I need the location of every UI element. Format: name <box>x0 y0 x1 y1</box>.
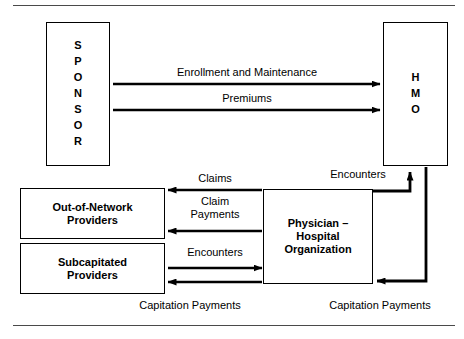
hmo-letter: H <box>412 70 420 86</box>
out-of-network-label: Out-of-Network Providers <box>48 201 136 227</box>
sponsor-letter: S <box>74 38 81 54</box>
label-encounters-hmo: Encounters <box>318 168 398 181</box>
hmo-letter: O <box>411 102 420 118</box>
pho-line3: Organization <box>284 243 351 255</box>
label-premiums: Premiums <box>152 92 342 105</box>
node-sponsor[interactable]: S P O N S O R <box>46 22 110 166</box>
sponsor-letter: P <box>74 54 81 70</box>
node-subcapitated-providers[interactable]: Subcapitated Providers <box>20 243 165 294</box>
label-capitation-payments-left: Capitation Payments <box>110 299 270 312</box>
pho-line1: Physician – <box>288 217 349 229</box>
subcapitated-line1: Subcapitated <box>58 256 127 268</box>
node-physician-hospital-organization[interactable]: Physician – Hospital Organization <box>263 189 373 284</box>
claim-payments-line2: Payments <box>191 208 240 220</box>
label-enrollment-and-maintenance: Enrollment and Maintenance <box>152 66 342 79</box>
node-out-of-network-providers[interactable]: Out-of-Network Providers <box>20 188 165 239</box>
out-of-network-line2: Providers <box>67 214 118 226</box>
sponsor-letter: O <box>74 118 83 134</box>
sponsor-letter: N <box>74 86 82 102</box>
node-hmo[interactable]: H M O <box>383 22 448 166</box>
subcapitated-label: Subcapitated Providers <box>54 256 131 282</box>
pho-label: Physician – Hospital Organization <box>280 217 355 256</box>
arrow-capitation-hmo <box>377 167 426 281</box>
top-rule <box>13 5 455 6</box>
subcapitated-line2: Providers <box>67 269 118 281</box>
label-encounters-subcapitated: Encounters <box>172 246 258 259</box>
sponsor-letter: O <box>74 70 83 86</box>
claim-payments-line1: Claim <box>201 195 229 207</box>
pho-line2: Hospital <box>296 230 339 242</box>
out-of-network-line1: Out-of-Network <box>52 201 132 213</box>
bottom-rule <box>13 325 455 326</box>
sponsor-letter: S <box>74 102 81 118</box>
diagram-canvas: S P O N S O R H M O Out-of-Network Provi… <box>0 0 464 339</box>
hmo-letter: M <box>411 86 420 102</box>
label-claims: Claims <box>175 172 255 185</box>
label-capitation-payments-right: Capitation Payments <box>300 299 460 312</box>
sponsor-letter: R <box>74 134 82 150</box>
label-claim-payments: Claim Payments <box>172 195 258 222</box>
